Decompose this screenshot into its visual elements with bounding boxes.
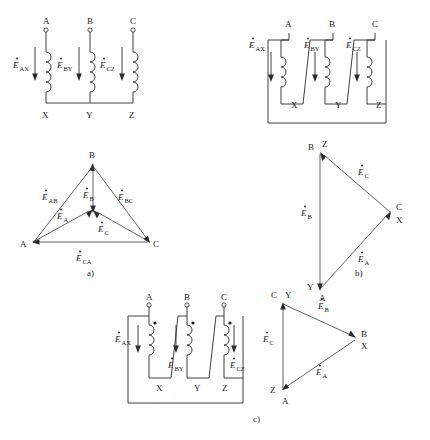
phasor-label-eb: E B [317,299,330,313]
svg-text:A: A [64,216,69,223]
emf-label-cz: E CZ [99,58,115,72]
svg-text:E: E [262,334,269,344]
svg-text:E: E [303,40,310,50]
phasor-side-eb [317,154,323,291]
svg-text:BY: BY [64,65,73,72]
phasor-label-eab: E AB [41,190,58,204]
phasor-vertex-x: X [361,341,368,351]
svg-text:E: E [317,301,324,311]
terminal-dot-a [44,28,48,32]
svg-text:B: B [325,306,330,313]
svg-text:AX: AX [256,45,266,52]
phasor-vertex-c: C [271,290,277,300]
terminal-dot-b [185,303,189,307]
polarity-dot-b [191,321,194,324]
phasor-side-ea [321,211,391,288]
emf-arrow-cz [354,52,360,82]
emf-arrow-ax [268,52,274,82]
emf-label-ax: E AX [12,58,29,72]
phasor-vertex-a: A [20,239,27,249]
phasor-vertex-b: B [308,142,314,152]
phasor-vertex-b: B [89,150,95,160]
phasor-vertex-z: Z [270,385,276,395]
terminal-label-a: A [146,292,153,302]
svg-text:E: E [300,208,307,218]
svg-text:B: B [90,195,95,202]
coil-b [90,52,95,92]
svg-text:E: E [56,60,63,70]
circuit-star-connection: A B C X Y Z E AX E BY E CZ [0,0,215,140]
terminal-label-b: B [329,19,335,29]
svg-text:E: E [117,192,124,202]
winding-a-top [281,40,289,57]
coil-c [367,57,372,87]
svg-text:C: C [270,339,274,346]
phasor-label-ea: E A [56,209,69,223]
terminal-label-z: Z [222,383,228,393]
emf-label-cz: E CZ [229,358,245,372]
phasor-side-ca [32,239,148,245]
circuit-delta-connection: A B C X Y Z E AX E BY E CZ [215,0,430,140]
coil-c [133,52,138,92]
winding-c-right-rail [367,40,386,104]
svg-text:E: E [315,367,322,377]
phasor-side-ea [282,340,355,390]
svg-text:E: E [99,60,106,70]
emf-arrow-ax [135,325,141,353]
svg-text:E: E [82,190,89,200]
terminal-label-y: Y [86,110,93,120]
phasor-vertex-b: B [361,329,367,339]
svg-text:CZ: CZ [353,45,361,52]
terminal-dot-c [131,28,135,32]
terminal-label-c: C [221,292,227,302]
terminal-label-b: B [184,292,190,302]
svg-text:CA: CA [83,258,92,265]
terminal-dot-a [147,303,151,307]
winding-b-top [325,40,333,57]
caption-a: a) [87,268,94,278]
svg-text:E: E [114,334,121,344]
phasor-vertex-y: Y [285,290,292,300]
phasor-delta-diagram: B Z C X Y A E B E C E A [215,140,430,280]
emf-label-ax: E AX [114,332,131,346]
svg-text:BY: BY [311,45,320,52]
emf-arrow-by [312,52,318,82]
winding-c-top [367,40,375,57]
emf-arrow-cz [119,47,125,81]
terminal-label-b: B [87,16,93,26]
svg-text:E: E [41,192,48,202]
phasor-side-ab [33,163,95,243]
svg-text:E: E [229,360,236,370]
svg-text:E: E [345,40,352,50]
svg-text:E: E [56,211,63,221]
terminal-label-x: X [156,383,163,393]
polarity-dot-c [228,321,231,324]
svg-text:AX: AX [122,339,132,346]
phasor-vertex-c: C [153,239,159,249]
phasor-label-ec: E C [357,165,369,179]
phasor-reverse-delta-diagram: C Y B X Z A E C E B E A [250,285,430,425]
terminal-label-y: Y [194,383,201,393]
terminal-label-z: Z [129,110,135,120]
svg-text:E: E [357,167,364,177]
svg-text:C: C [365,172,369,179]
phasor-vertex-z: Z [322,139,328,149]
terminal-label-c: C [130,16,136,26]
svg-text:B: B [308,213,313,220]
svg-text:BY: BY [175,365,184,372]
svg-text:BC: BC [125,197,134,204]
terminal-dot-b [88,28,92,32]
svg-text:CZ: CZ [237,365,245,372]
emf-arrow-cz [231,325,237,353]
phasor-phase-b [90,166,96,213]
svg-text:C: C [105,229,109,236]
phasor-vertex-x: X [396,215,403,225]
svg-text:E: E [167,360,174,370]
coil-b [325,57,330,87]
phasor-vertex-c: C [396,202,402,212]
terminal-label-a: A [43,16,50,26]
emf-label-ax: E AX [248,38,265,52]
svg-text:E: E [12,60,19,70]
terminal-label-z: Z [376,100,382,110]
phasor-label-ea: E A [357,252,370,266]
